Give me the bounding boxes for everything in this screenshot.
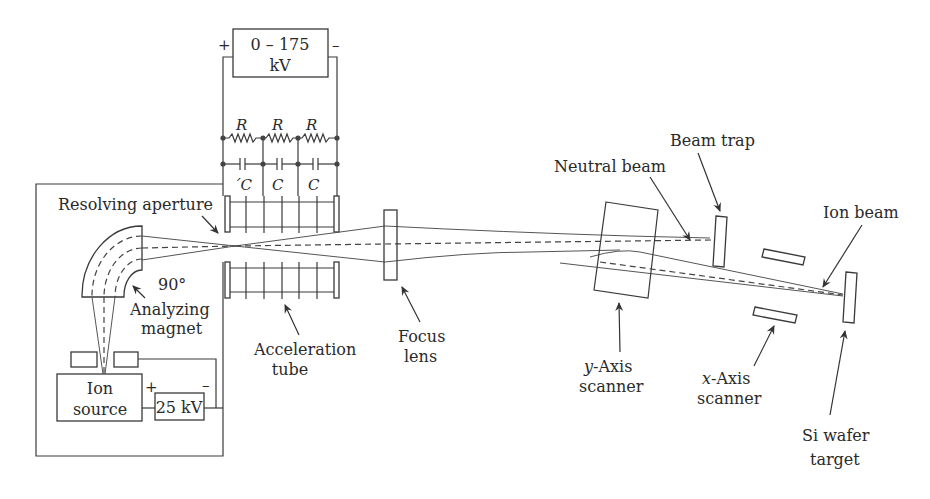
wafer-arrow-icon [830,331,845,415]
beam-trap-label: Beam trap [670,131,755,150]
resistor-label-2: R [271,116,283,134]
x-scanner-label-2: scanner [697,389,762,408]
resistor-label-3: R [305,116,317,134]
voltage-divider: R R R ´C C C [220,116,339,196]
label-si-wafer: Si wafer target [802,331,870,469]
x-scanner-arrow-icon [754,326,774,366]
hv-plus-sign: + [218,36,231,54]
magnet-angle-label: 90° [158,275,186,294]
acceleration-tube-label-1: Acceleration [253,340,356,359]
resistor-1 [223,134,263,142]
analyzing-magnet-label-1: Analyzing [129,300,210,319]
analyzing-magnet-label-2: magnet [141,319,203,338]
extraction-plus-sign: + [145,378,158,396]
resistor-3 [298,134,337,142]
focus-lens-label-2: lens [404,347,437,366]
neutral-beam-label: Neutral beam [554,157,666,176]
acceleration-tube [225,196,339,299]
svg-text:x-Axis: x-Axis [702,369,750,388]
ion-beam-label: Ion beam [823,203,899,222]
capacitor-label-2: C [272,176,284,194]
ion-beam-path [142,226,843,296]
y-scanner-arrow-icon [619,303,620,352]
beam-trap-arrow-icon [698,153,720,211]
label-acceleration-tube: Acceleration tube [253,305,356,379]
x-scanner-axis-rest: -Axis [711,369,750,388]
label-y-axis-scanner: y-Axis scanner [579,303,644,396]
magnet-arrow-icon [133,286,145,298]
label-ion-beam: Ion beam [823,203,899,287]
extraction-supply-label: 25 kV [156,398,203,417]
acceleration-tube-arrow-icon [285,305,299,335]
capacitor-label-3: C [308,176,320,194]
resistor-2 [263,134,298,142]
resistor-label-1: R [235,116,247,134]
focus-lens [384,210,397,280]
extraction-electrode-right [114,352,138,367]
ion-source-label-1: Ion [87,379,113,398]
label-focus-lens: Focus lens [398,287,445,366]
focus-lens-label-1: Focus [398,327,445,346]
x-scanner-axis-letter: x [702,369,711,388]
wafer-label-2: target [810,450,860,469]
ion-source-assembly: Ion source 25 kV + – [57,352,223,421]
ion-implanter-diagram: 0 – 175 kV + – R R R ´C C C [0,0,930,499]
label-analyzing-magnet: 90° Analyzing magnet [129,275,210,338]
acceleration-tube-label-2: tube [272,360,308,379]
y-scanner-label-2: scanner [579,377,644,396]
extraction-electrode-left [71,352,97,367]
label-neutral-beam: Neutral beam [554,157,690,240]
beam-trap [713,216,727,267]
hv-supply-unit: kV [269,56,291,75]
capacitor-label-1: ´C [233,176,253,194]
si-wafer-target [843,272,857,323]
hv-minus-sign: – [332,36,340,54]
high-voltage-supply: 0 – 175 kV + – [218,29,340,196]
hv-supply-range: 0 – 175 [251,35,310,54]
focus-lens-arrow-icon [402,287,420,322]
label-beam-trap: Beam trap [670,131,755,211]
label-x-axis-scanner: x-Axis scanner [697,326,774,408]
svg-text:y-Axis: y-Axis [583,357,632,376]
ion-source-label-2: source [73,400,127,419]
resolving-aperture-label: Resolving aperture [58,195,213,214]
wafer-label-1: Si wafer [802,426,870,445]
extraction-minus-sign: – [202,376,210,394]
resolving-aperture-arrow-icon [202,216,218,233]
y-scanner-axis-rest: -Axis [593,357,632,376]
